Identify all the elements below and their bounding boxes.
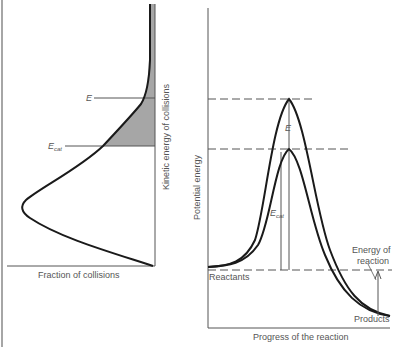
left-y-axis-label: Kinetic energy of collisions — [161, 83, 171, 190]
right-x-axis-label: Progress of the reaction — [253, 332, 349, 342]
energy-of-reaction-label-line2: reaction — [357, 256, 389, 266]
energy-of-reaction-leader — [368, 264, 376, 280]
energy-of-reaction-label-line1: Energy of — [352, 245, 391, 255]
shaded-area-above-ecat — [103, 4, 155, 146]
products-label: Products — [354, 314, 390, 324]
diagram-canvas: E Ecat Fraction of collisions Kinetic en… — [0, 0, 396, 347]
left-x-axis-label: Fraction of collisions — [38, 270, 120, 280]
right-panel: E Ecat Reactants Products Energy of reac… — [192, 8, 392, 342]
reactants-label: Reactants — [209, 272, 250, 282]
catalyzed-curve — [208, 149, 390, 316]
right-y-axis-label: Potential energy — [192, 154, 202, 220]
right-ecat-label: Ecat — [270, 208, 284, 219]
ecat-label: Ecat — [48, 141, 62, 152]
e-label: E — [86, 93, 93, 103]
uncatalyzed-curve — [208, 99, 390, 316]
right-e-label: E — [285, 123, 292, 133]
left-panel: E Ecat Fraction of collisions Kinetic en… — [7, 4, 171, 280]
